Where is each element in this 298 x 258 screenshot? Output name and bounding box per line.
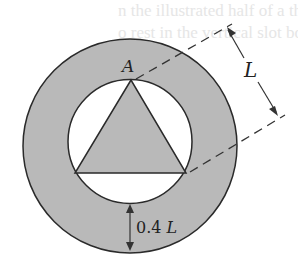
side-length-label: L	[243, 58, 257, 82]
vertex-label-a: A	[120, 56, 134, 76]
bleed-through-text-line-1: n the illustrated half of a thi	[118, 1, 298, 20]
ring-thickness-label: 0.4 L	[136, 218, 177, 237]
thickness-value: 0.4	[136, 218, 167, 237]
thickness-unit-l: L	[166, 218, 178, 237]
annulus-triangle-diagram: n the illustrated half of a thi o rest i…	[0, 0, 298, 258]
bleed-through-text-line-2: o rest in the vertical slot both	[118, 23, 298, 42]
arrowhead-down-icon	[269, 106, 278, 116]
